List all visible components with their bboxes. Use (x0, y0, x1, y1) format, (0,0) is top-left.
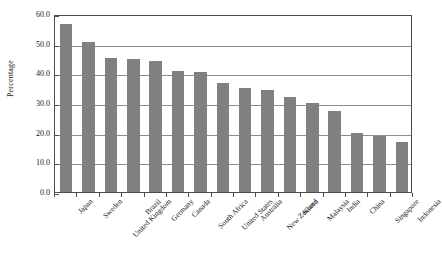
bar (60, 24, 73, 192)
x-axis-category-label: China (367, 197, 386, 216)
bar (149, 61, 162, 192)
y-axis-tick-label: 20.0 (20, 130, 50, 138)
y-axis-tick-label: 40.0 (20, 70, 50, 78)
y-axis-tick-labels: 60.050.040.030.020.010.00.0 (18, 0, 50, 264)
x-axis-category-labels: JapanSwedenUnited KingdomBrazilGermanyCa… (54, 197, 429, 264)
y-axis-tick-label: 0.0 (20, 189, 50, 197)
bar (396, 142, 409, 192)
bar (127, 59, 140, 192)
x-axis-category-label: Japan (76, 197, 94, 215)
x-axis-category-label: Korea (300, 197, 319, 216)
bar (261, 90, 274, 192)
y-axis-tick-label: 60.0 (20, 11, 50, 19)
bar (194, 72, 207, 192)
bar (328, 111, 341, 192)
x-axis-category-label: Sweden (101, 197, 124, 220)
bar (306, 103, 319, 192)
bar (172, 71, 185, 192)
bar (239, 88, 252, 192)
y-axis-tick-label: 10.0 (20, 159, 50, 167)
y-axis-tick-label: 50.0 (20, 41, 50, 49)
bar (284, 97, 297, 192)
x-axis-category-label: Singapore (393, 197, 421, 225)
bar (351, 133, 364, 192)
y-axis-tick-label: 30.0 (20, 100, 50, 108)
plot-area (54, 15, 412, 193)
bar (82, 42, 95, 192)
bar (373, 136, 386, 192)
bar-series (55, 16, 411, 192)
bar (105, 58, 118, 192)
bar (217, 83, 230, 192)
y-axis-title: Percentage (6, 43, 15, 115)
